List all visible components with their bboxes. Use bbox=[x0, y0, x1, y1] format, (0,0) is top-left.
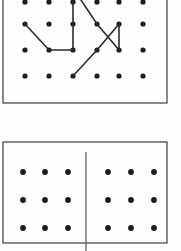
path-segment-seg-f bbox=[73, 50, 97, 76]
lattice-dot-r0-c0 bbox=[22, 0, 27, 5]
lattice-dot-r2-c0 bbox=[20, 225, 26, 231]
lattice-dot-r1-c5 bbox=[140, 21, 145, 26]
lattice-dot-r2-c1 bbox=[42, 225, 48, 231]
lattice-dot-r1-c2 bbox=[65, 197, 71, 203]
bottom-panel-frame bbox=[3, 142, 167, 243]
lattice-dot-r2-c5 bbox=[151, 225, 157, 231]
lattice-dot-r1-c5 bbox=[151, 197, 157, 203]
lattice-dot-r2-c4 bbox=[128, 225, 134, 231]
lattice-dot-r0-c5 bbox=[140, 0, 145, 5]
lattice-dot-r3-c5 bbox=[140, 73, 145, 78]
lattice-dot-r0-c1 bbox=[42, 169, 48, 175]
lattice-dot-r1-c1 bbox=[42, 197, 48, 203]
lattice-dot-r0-c3 bbox=[105, 169, 111, 175]
figure-root bbox=[0, 0, 181, 251]
lattice-dot-r1-c0 bbox=[20, 197, 26, 203]
lattice-dot-r3-c1 bbox=[46, 73, 51, 78]
lattice-dot-r0-c5 bbox=[151, 169, 157, 175]
lattice-dot-r0-c3 bbox=[94, 0, 99, 5]
lattice-dot-r2-c0 bbox=[22, 47, 27, 52]
lattice-dot-r2-c5 bbox=[140, 47, 145, 52]
lattice-dot-r1-c4 bbox=[128, 197, 134, 203]
top-panel bbox=[3, 0, 167, 103]
lattice-dot-r0-c1 bbox=[46, 0, 51, 5]
lattice-dot-r2-c2 bbox=[65, 225, 71, 231]
lattice-dot-r0-c2 bbox=[65, 169, 71, 175]
lattice-dot-r1-c3 bbox=[105, 197, 111, 203]
lattice-dot-r1-c1 bbox=[46, 21, 51, 26]
lattice-dot-r3-c0 bbox=[22, 73, 27, 78]
top-panel-dot-grid bbox=[22, 0, 145, 79]
lattice-dot-r2-c3 bbox=[105, 225, 111, 231]
bottom-panel-dot-grid bbox=[20, 169, 157, 231]
dot-lattice-figure bbox=[0, 0, 181, 251]
lattice-dot-r0-c0 bbox=[20, 169, 26, 175]
lattice-dot-r0-c4 bbox=[116, 0, 121, 5]
lattice-dot-r0-c4 bbox=[128, 169, 134, 175]
lattice-dot-r3-c3 bbox=[94, 73, 99, 78]
path-segment-seg-b bbox=[73, 0, 97, 24]
top-panel-polyline bbox=[25, 0, 119, 76]
bottom-panel bbox=[3, 142, 167, 251]
lattice-dot-r3-c4 bbox=[116, 73, 121, 78]
